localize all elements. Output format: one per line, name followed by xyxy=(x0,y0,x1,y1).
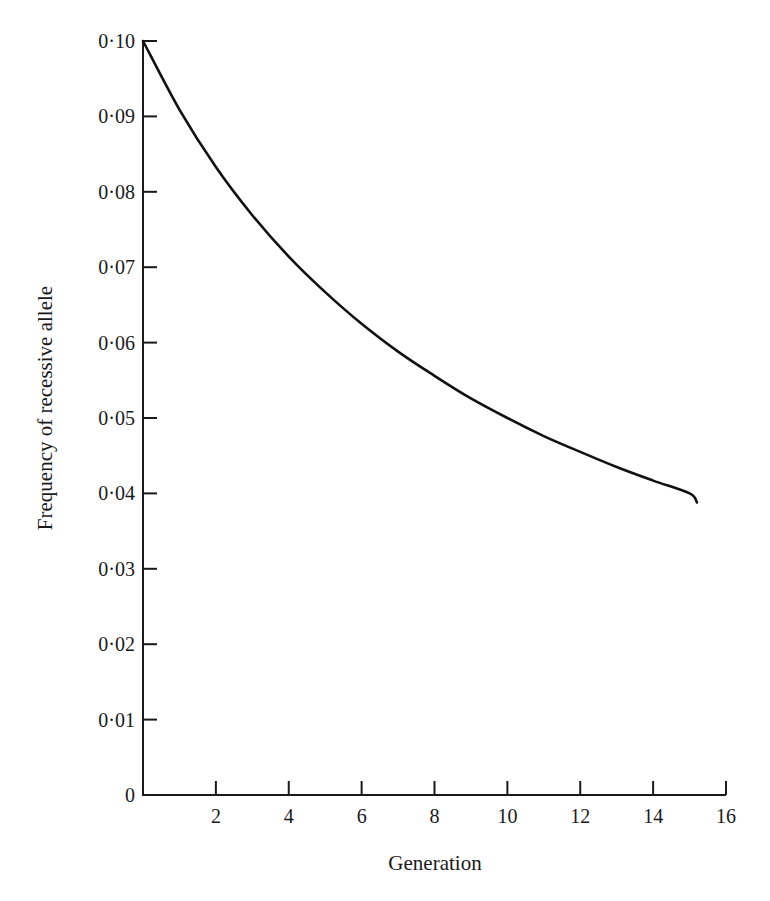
x-tick-label: 10 xyxy=(497,805,517,827)
y-tick-label: 0·04 xyxy=(98,482,135,504)
y-axis-title: Frequency of recessive allele xyxy=(33,286,57,530)
line-chart: 00·010·020·030·040·050·060·070·080·090·1… xyxy=(0,0,770,901)
y-tick-label: 0 xyxy=(125,784,135,806)
x-tick-label: 14 xyxy=(643,805,663,827)
y-axis-ticks: 00·010·020·030·040·050·060·070·080·090·1… xyxy=(98,30,157,806)
x-tick-label: 4 xyxy=(284,805,294,827)
x-tick-label: 12 xyxy=(570,805,590,827)
axes xyxy=(142,41,726,795)
x-axis-title: Generation xyxy=(388,851,482,875)
x-tick-label: 8 xyxy=(430,805,440,827)
y-tick-label: 0·06 xyxy=(98,332,135,354)
y-tick-label: 0·10 xyxy=(98,30,135,52)
chart-container: 00·010·020·030·040·050·060·070·080·090·1… xyxy=(0,0,770,901)
y-tick-label: 0·01 xyxy=(98,709,135,731)
x-tick-label: 16 xyxy=(716,805,736,827)
data-line xyxy=(143,41,697,502)
y-tick-label: 0·02 xyxy=(98,633,135,655)
y-tick-label: 0·08 xyxy=(98,181,135,203)
y-tick-label: 0·05 xyxy=(98,407,135,429)
y-tick-label: 0·03 xyxy=(98,558,135,580)
y-tick-label: 0·09 xyxy=(98,105,135,127)
x-tick-label: 2 xyxy=(211,805,221,827)
x-tick-label: 6 xyxy=(357,805,367,827)
y-tick-label: 0·07 xyxy=(98,256,135,278)
x-axis-ticks: 246810121416 xyxy=(211,781,736,827)
